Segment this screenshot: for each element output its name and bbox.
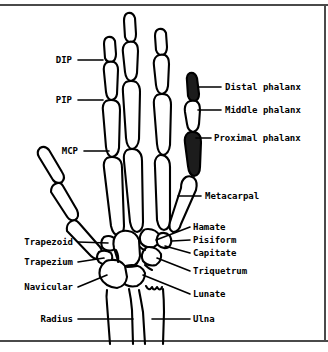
bone-ulna: [139, 289, 164, 344]
bone-index-distal-phalanx: [104, 37, 116, 62]
label-trapezoid: Trapezoid: [24, 237, 73, 247]
hand-skeleton-illustration: DIP PIP MCP Trapezoid Trapezium Navicula…: [0, 0, 328, 352]
bone-middle-distal-phalanx: [124, 13, 136, 42]
bone-ring-proximal-phalanx: [154, 94, 171, 155]
label-navicular: Navicular: [24, 282, 73, 292]
label-hamate: Hamate: [193, 222, 226, 232]
label-triquetrum: Triquetrum: [193, 266, 248, 276]
bone-ulnar-styloid: [146, 286, 162, 290]
bone-thumb-distal-phalanx: [38, 147, 64, 183]
label-group-right: Distal phalanx Middle phalanx Proximal p…: [193, 82, 301, 324]
bone-radius: [107, 289, 134, 344]
label-proximal-phalanx: Proximal phalanx: [214, 133, 301, 143]
label-pip: PIP: [56, 95, 73, 105]
bone-little-distal-phalanx-highlighted: [187, 73, 199, 101]
label-radius: Radius: [40, 314, 73, 324]
bone-little-middle-phalanx: [185, 101, 200, 132]
bone-thumb-proximal-phalanx: [51, 183, 78, 221]
bone-ring-distal-phalanx: [155, 29, 167, 55]
bone-middle-metacarpal: [124, 149, 143, 232]
label-lunate: Lunate: [193, 289, 226, 299]
bone-index-middle-phalanx: [104, 62, 118, 100]
bone-ring-middle-phalanx: [154, 55, 169, 94]
leader-lines: [78, 60, 221, 319]
label-dip: DIP: [56, 55, 73, 65]
bone-index-metacarpal: [104, 157, 124, 235]
label-trapezium: Trapezium: [24, 257, 73, 267]
bone-middle-middle-phalanx: [123, 42, 138, 81]
bone-navicular: [100, 260, 128, 288]
label-ulna: Ulna: [193, 314, 215, 324]
label-distal-phalanx: Distal phalanx: [225, 82, 301, 92]
label-capitate: Capitate: [193, 248, 237, 258]
bone-ring-metacarpal: [155, 155, 170, 230]
label-pisiform: Pisiform: [193, 235, 237, 245]
anatomy-figure: DIP PIP MCP Trapezoid Trapezium Navicula…: [0, 0, 328, 352]
label-mcp: MCP: [62, 146, 79, 156]
label-metacarpal: Metacarpal: [205, 191, 259, 201]
bone-index-proximal-phalanx: [103, 100, 120, 157]
bone-middle-proximal-phalanx: [123, 81, 140, 149]
label-middle-phalanx: Middle phalanx: [225, 105, 301, 115]
